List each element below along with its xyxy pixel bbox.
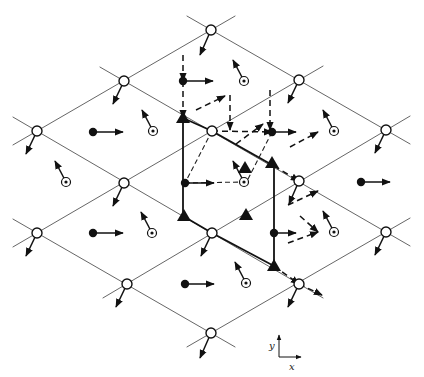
- axis-indicator: y x: [268, 335, 301, 372]
- lattice-lines: [13, 16, 411, 347]
- target-dot-center: [150, 231, 153, 234]
- dashed-link: [246, 132, 272, 183]
- dashed-arrow: [290, 132, 318, 147]
- open-node-icon: [32, 126, 42, 136]
- dashed-arrow: [212, 131, 272, 132]
- filled-dot-icon: [89, 229, 97, 237]
- target-dot-center: [332, 129, 335, 132]
- filled-dot-icon: [357, 178, 365, 186]
- filled-dot-icon: [89, 128, 97, 136]
- filled-dot-icon: [268, 128, 276, 136]
- triangle-markers: [176, 111, 281, 271]
- bond-line: [212, 131, 274, 166]
- open-node-icon: [294, 75, 304, 85]
- target-dot-spins: [55, 60, 339, 288]
- target-dot-center: [242, 180, 245, 183]
- lattice-line: [13, 66, 324, 247]
- diagram-canvas: y x: [0, 0, 424, 377]
- dashed-arrows: [183, 55, 322, 295]
- filled-dot-icon: [270, 229, 278, 237]
- target-dot-center: [242, 79, 245, 82]
- open-node-icon: [207, 228, 217, 238]
- bond-line: [212, 233, 274, 266]
- open-node-icon: [207, 126, 217, 136]
- dashed-arrow: [196, 96, 225, 110]
- lattice-nodes: [32, 25, 391, 338]
- lattice-line: [103, 116, 411, 298]
- open-node-icon: [206, 25, 216, 35]
- dashed-arrow: [288, 191, 318, 205]
- filled-dot-icon: [181, 179, 189, 187]
- open-node-icon: [119, 76, 129, 86]
- target-dot-center: [151, 129, 154, 132]
- node-spin-arrows: [26, 30, 386, 358]
- open-node-icon: [294, 279, 304, 289]
- target-dot-center: [64, 180, 67, 183]
- target-dot-center: [332, 230, 335, 233]
- triangle-marker-icon: [267, 259, 281, 271]
- open-node-icon: [294, 176, 304, 186]
- open-node-icon: [381, 125, 391, 135]
- triangle-marker-icon: [238, 161, 252, 173]
- open-node-icon: [122, 279, 132, 289]
- triangle-marker-icon: [177, 209, 191, 221]
- target-dot-center: [244, 281, 247, 284]
- open-node-icon: [119, 178, 129, 188]
- open-node-icon: [381, 227, 391, 237]
- open-node-icon: [206, 328, 216, 338]
- triangle-marker-icon: [176, 111, 190, 123]
- lattice-figure: y x: [0, 0, 424, 377]
- open-node-icon: [32, 228, 42, 238]
- filled-dot-icon: [179, 77, 187, 85]
- lattice-line: [100, 67, 411, 246]
- y-axis-label: y: [268, 340, 275, 351]
- filled-dot-icon: [181, 280, 189, 288]
- x-axis-label: x: [289, 361, 295, 372]
- dashed-arrow: [300, 216, 318, 232]
- dashed-arrow: [236, 124, 263, 144]
